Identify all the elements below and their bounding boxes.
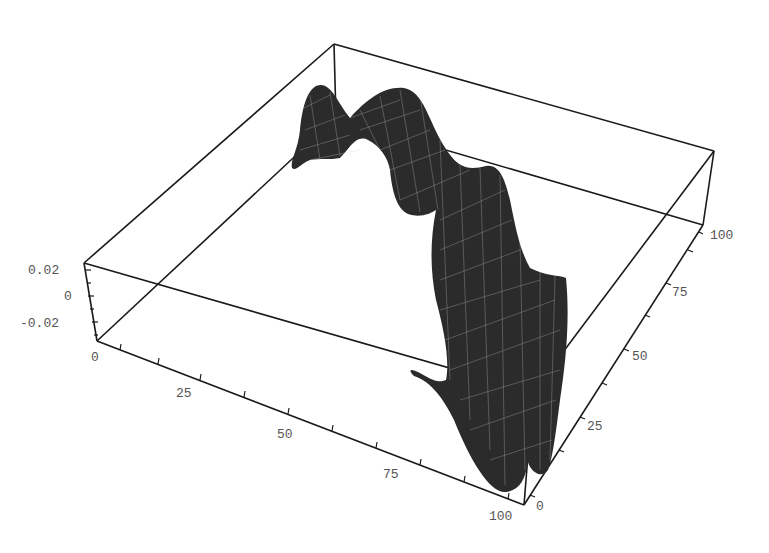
x-tick-label: 50 <box>277 427 293 442</box>
y-tick-label: 100 <box>710 228 733 243</box>
x-tick-label: 25 <box>176 386 192 401</box>
y-tick-label: 50 <box>632 349 648 364</box>
x-tick-label: 75 <box>383 467 399 482</box>
surface-plot-3d: 0.02 0 -0.02 0 25 50 75 100 0 25 50 75 <box>0 0 769 553</box>
y-tick-label: 25 <box>587 419 603 434</box>
z-tick-label: 0.02 <box>28 263 59 278</box>
y-tick-label: 0 <box>536 499 544 514</box>
z-tick-label: 0 <box>64 289 72 304</box>
x-tick-label: 100 <box>489 509 512 524</box>
z-tick-label: -0.02 <box>20 316 59 331</box>
x-tick-label: 0 <box>91 350 99 365</box>
y-tick-label: 75 <box>672 285 688 300</box>
